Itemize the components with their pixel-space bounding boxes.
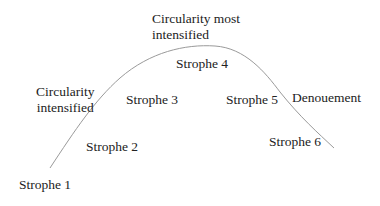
label-circularity-intensified-line1: Circularity <box>36 84 94 100</box>
arch-diagram: Circularity most intensified Strophe 4 C… <box>0 0 380 206</box>
label-strophe-6: Strophe 6 <box>269 134 321 150</box>
label-strophe-5: Strophe 5 <box>226 92 278 108</box>
label-circularity-most-line2: intensified <box>152 27 240 43</box>
label-circularity-intensified-line2: intensified <box>36 100 94 116</box>
label-denouement: Denouement <box>292 90 361 106</box>
label-strophe-4: Strophe 4 <box>176 56 228 72</box>
label-circularity-intensified: Circularity intensified <box>36 84 94 116</box>
label-circularity-most-intensified: Circularity most intensified <box>152 11 240 43</box>
label-strophe-2: Strophe 2 <box>86 139 138 155</box>
label-strophe-1: Strophe 1 <box>19 177 71 193</box>
label-circularity-most-line1: Circularity most <box>152 11 240 27</box>
label-strophe-3: Strophe 3 <box>126 92 178 108</box>
